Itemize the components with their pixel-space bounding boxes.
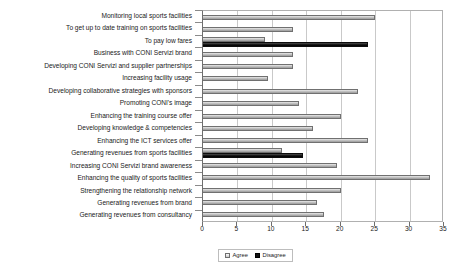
category-tick <box>195 97 202 109</box>
category-tick <box>195 122 202 134</box>
category-label: Enhancing the quality of sports faciliti… <box>0 172 195 184</box>
bar-agree <box>203 52 293 57</box>
category-label: Enhancing the ICT services offer <box>0 135 195 147</box>
bars-layer <box>203 11 442 221</box>
bar-group <box>203 85 442 97</box>
value-axis-labels: 05101520253035 <box>162 226 463 238</box>
bar-group <box>203 147 442 159</box>
bar-group <box>203 196 442 208</box>
bar-agree <box>203 15 375 20</box>
legend-label: Agree <box>233 253 248 259</box>
category-tick <box>195 35 202 47</box>
bar-group <box>203 98 442 110</box>
category-label: Increasing facility usage <box>0 72 195 84</box>
bar-agree <box>203 126 313 131</box>
category-label: Generating revenues from consultancy <box>0 210 195 222</box>
category-tick <box>195 172 202 184</box>
bar-group <box>203 209 442 221</box>
bar-agree <box>203 76 268 81</box>
category-label: To get up to date training on sports fac… <box>0 22 195 34</box>
bar-agree <box>203 175 430 180</box>
category-tick <box>195 10 202 22</box>
category-label: Generating revenues from brand <box>0 197 195 209</box>
legend-label: Disagree <box>262 253 285 259</box>
category-tick <box>195 110 202 122</box>
category-tick <box>195 60 202 72</box>
bar-agree <box>203 212 324 217</box>
bar-agree <box>203 114 341 119</box>
category-label: Developing CONI Servizi and supplier par… <box>0 60 195 72</box>
bar-disagree <box>203 42 368 47</box>
bar-agree <box>203 89 358 94</box>
chart-legend: AgreeDisagree <box>218 249 293 262</box>
legend-entry: Agree <box>225 253 248 259</box>
category-tick <box>195 22 202 34</box>
category-tick <box>195 85 202 97</box>
category-label: Developing knowledge & competencies <box>0 122 195 134</box>
bar-group <box>203 36 442 48</box>
category-label: Promoting CONI's image <box>0 97 195 109</box>
category-label: Business with CONI Servizi brand <box>0 47 195 59</box>
category-tick <box>195 147 202 159</box>
plot-area <box>202 10 443 222</box>
category-axis: Monitoring local sports facilitiesTo get… <box>0 10 195 222</box>
bar-agree <box>203 101 299 106</box>
bar-agree <box>203 200 317 205</box>
bar-disagree <box>203 153 303 158</box>
category-tick <box>195 197 202 209</box>
bar-group <box>203 172 442 184</box>
category-tick <box>195 72 202 84</box>
legend-entry: Disagree <box>255 253 286 259</box>
bar-group <box>203 184 442 196</box>
bar-agree <box>203 27 293 32</box>
bar-group <box>203 48 442 60</box>
category-label: Developing collaborative strategies with… <box>0 85 195 97</box>
swatch-disagree-icon <box>255 253 260 258</box>
value-tick-label: 35 <box>423 226 463 233</box>
category-label: Increasing CONI Servizi brand awareness <box>0 160 195 172</box>
bar-group <box>203 60 442 72</box>
category-label: Monitoring local sports facilities <box>0 10 195 22</box>
category-label: Generating revenues from sports faciliti… <box>0 147 195 159</box>
category-label: Enhancing the training course offer <box>0 110 195 122</box>
bar-agree <box>203 163 337 168</box>
category-tick <box>195 135 202 147</box>
bar-agree <box>203 64 293 69</box>
bar-agree <box>203 138 368 143</box>
bar-group <box>203 23 442 35</box>
bar-group <box>203 122 442 134</box>
category-tick <box>195 210 202 222</box>
bar-group <box>203 110 442 122</box>
category-tick <box>195 185 202 197</box>
category-tick <box>195 160 202 172</box>
category-tick <box>195 47 202 59</box>
category-axis-ticks <box>195 10 202 222</box>
bar-group <box>203 159 442 171</box>
bar-group <box>203 73 442 85</box>
swatch-agree-icon <box>225 253 230 258</box>
bar-agree <box>203 188 341 193</box>
category-label: Strengthening the relationship network <box>0 185 195 197</box>
bar-group <box>203 11 442 23</box>
bar-chart: Monitoring local sports facilitiesTo get… <box>0 0 463 272</box>
category-label: To pay low fares <box>0 35 195 47</box>
bar-group <box>203 135 442 147</box>
